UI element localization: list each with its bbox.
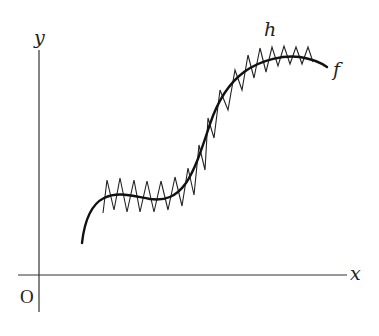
curve-h-label: h xyxy=(264,18,276,40)
curve-f-label: f xyxy=(331,58,343,80)
y-axis-label: y xyxy=(33,26,45,48)
origin-label: O xyxy=(20,286,34,307)
curve-f-smooth xyxy=(82,57,327,243)
x-axis-label: x xyxy=(350,262,361,284)
function-approximation-diagram: y x O h f xyxy=(0,0,379,336)
